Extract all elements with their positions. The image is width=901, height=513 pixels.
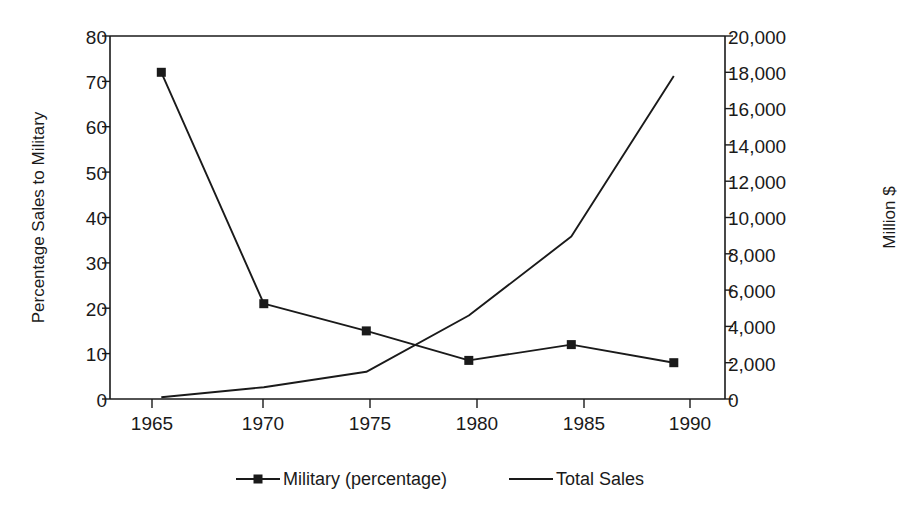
data-point-marker [259, 299, 268, 308]
x-tick-label: 1990 [645, 414, 735, 433]
chart-legend: Military (percentage) Total Sales [0, 462, 880, 496]
y-left-tick-label: 20 [45, 300, 107, 319]
y-right-tick-label: 10,000 [728, 209, 786, 228]
legend-label: Total Sales [556, 469, 644, 490]
y-axis-right-title: Million $ [877, 36, 901, 399]
y-right-tick-label: 20,000 [728, 28, 786, 47]
x-ticks [152, 399, 690, 408]
square-line-marker-icon [236, 472, 280, 486]
data-point-marker [157, 68, 166, 77]
x-tick-1965: 1965 [107, 414, 197, 438]
x-tick-label: 1980 [432, 414, 522, 433]
series-military-line [161, 72, 674, 362]
legend-label: Military (percentage) [283, 469, 447, 490]
legend-item-total-sales[interactable]: Total Sales [509, 469, 644, 490]
legend-item-military[interactable]: Military (percentage) [236, 469, 447, 490]
series-military-markers [157, 68, 679, 367]
y-right-tick-label: 0 [728, 391, 739, 410]
y-left-tick-label: 0 [45, 391, 107, 410]
y-left-tick-label: 70 [45, 73, 107, 92]
plain-line-marker-icon [509, 472, 553, 486]
x-tick-label: 1970 [218, 414, 308, 433]
x-tick-label: 1985 [539, 414, 629, 433]
y-left-tick-label: 80 [45, 28, 107, 47]
data-point-marker [669, 358, 678, 367]
x-tick-1990: 1990 [645, 414, 735, 438]
y-right-tick-label: 2,000 [728, 355, 776, 374]
y-right-tick-label: 14,000 [728, 137, 786, 156]
data-point-marker [362, 326, 371, 335]
y-right-tick-label: 8,000 [728, 246, 776, 265]
y-left-tick-label: 60 [45, 118, 107, 137]
x-tick-label: 1965 [107, 414, 197, 433]
x-tick-1970: 1970 [218, 414, 308, 438]
y-right-tick-label: 18,000 [728, 64, 786, 83]
y-right-tick-label: 6,000 [728, 282, 776, 301]
x-tick-1975: 1975 [325, 414, 415, 438]
data-point-marker [567, 340, 576, 349]
y-axis-left-title: Percentage Sales to Military [26, 36, 52, 399]
y-right-tick-label: 4,000 [728, 318, 776, 337]
y-left-tick-label: 40 [45, 209, 107, 228]
y-left-tick-label: 30 [45, 254, 107, 273]
y-right-tick-label: 16,000 [728, 100, 786, 119]
data-point-marker [464, 356, 473, 365]
x-tick-label: 1975 [325, 414, 415, 433]
y-left-tick-label: 10 [45, 345, 107, 364]
x-tick-1980: 1980 [432, 414, 522, 438]
x-tick-1985: 1985 [539, 414, 629, 438]
y-left-tick-label: 50 [45, 164, 107, 183]
y-right-tick-label: 12,000 [728, 173, 786, 192]
